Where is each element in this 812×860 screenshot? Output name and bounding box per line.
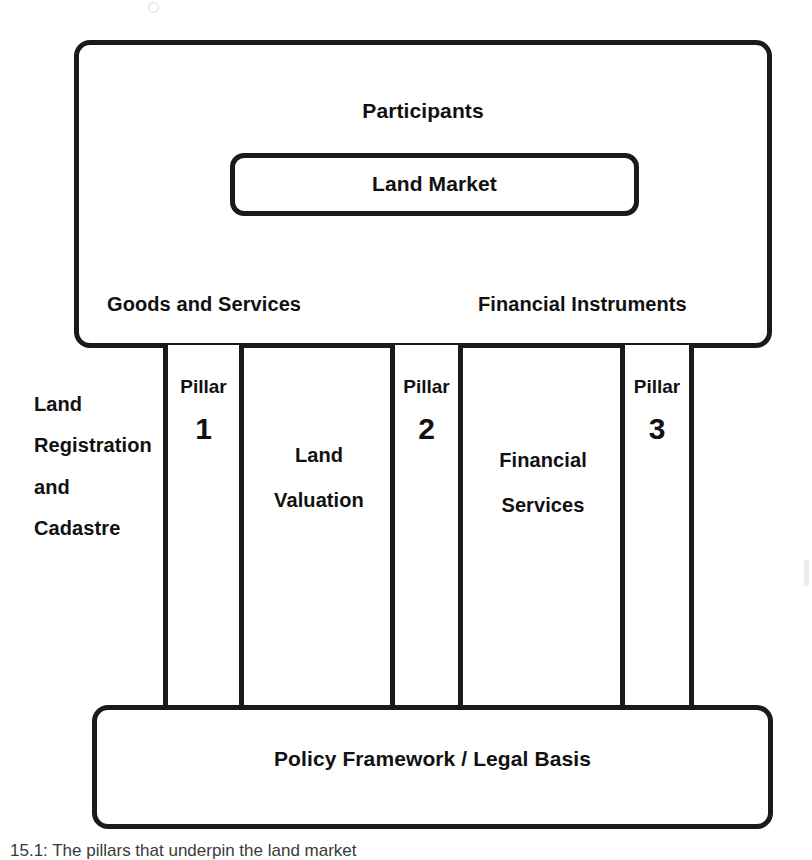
pillar-2-number: 2 — [390, 414, 463, 444]
pillar-2-caption: Pillar 2 — [390, 377, 463, 444]
financial-services-label: Financial Services — [466, 438, 620, 528]
participants-label: Participants — [74, 100, 772, 121]
land-valuation-label: Land Valuation — [248, 433, 390, 523]
land-registration-and-cadastre-label: Land Registration and Cadastre — [34, 384, 162, 550]
pillar-1-number: 1 — [163, 414, 244, 444]
pillar-3-word: Pillar — [620, 377, 694, 396]
goods-and-services-label: Goods and Services — [107, 294, 301, 314]
scan-artifact-speck — [148, 2, 159, 13]
pillar-3-number: 3 — [620, 414, 694, 444]
figure-three-pillars-land-market: Participants Land Market Goods and Servi… — [0, 0, 812, 860]
pillar-2-word: Pillar — [390, 377, 463, 396]
pillar-1-word: Pillar — [163, 377, 244, 396]
land-market-label: Land Market — [230, 173, 639, 194]
financial-instruments-label: Financial Instruments — [478, 294, 687, 314]
pillar-1-caption: Pillar 1 — [163, 377, 244, 444]
scan-artifact-edge — [804, 560, 809, 586]
policy-framework-legal-basis-label: Policy Framework / Legal Basis — [92, 748, 773, 769]
figure-caption: 15.1: The pillars that underpin the land… — [10, 841, 800, 860]
pillar-3-caption: Pillar 3 — [620, 377, 694, 444]
